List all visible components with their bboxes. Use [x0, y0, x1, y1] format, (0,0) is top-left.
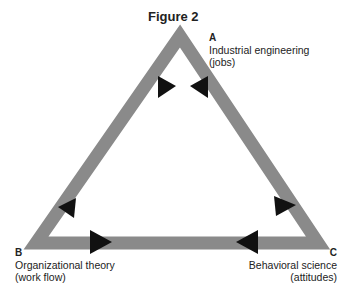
vertex-b-detail: (work flow) — [15, 271, 66, 283]
vertex-c-name: Behavioral science — [249, 259, 337, 271]
vertex-a-label: A Industrial engineering (jobs) — [209, 31, 309, 68]
vertex-c-letter: C — [330, 247, 337, 258]
vertex-a-letter: A — [209, 32, 216, 43]
vertex-b-name: Organizational theory — [15, 259, 115, 271]
vertex-a-detail: (jobs) — [209, 56, 235, 68]
vertex-b-letter: B — [15, 247, 22, 258]
vertex-a-name: Industrial engineering — [209, 44, 309, 56]
vertex-c-detail: (attitudes) — [290, 271, 337, 283]
arrow-icon — [190, 76, 208, 98]
vertex-c-label: C Behavioral science (attitudes) — [249, 246, 337, 283]
vertex-b-label: B Organizational theory (work flow) — [15, 246, 115, 283]
arrow-icon — [158, 76, 176, 98]
